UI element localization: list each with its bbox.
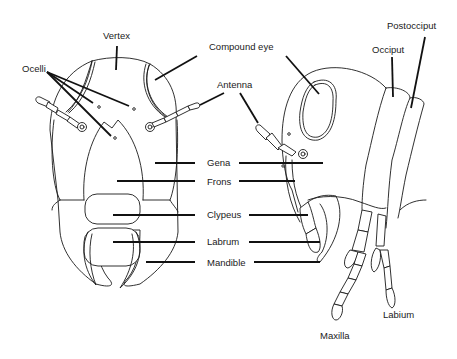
label-occiput: Occiput: [372, 44, 405, 55]
ocellus-lower: [114, 137, 117, 140]
label-clypeus: Clypeus: [207, 209, 242, 220]
label-vertex: Vertex: [103, 30, 130, 41]
label-postocciput: Postocciput: [387, 20, 436, 31]
label-maxilla: Maxilla: [320, 330, 350, 341]
ocellus-left: [98, 106, 101, 109]
ocellus-median: [133, 108, 136, 111]
label-labrum: Labrum: [207, 236, 239, 247]
insect-head-diagram: Vertex Ocelli Compound eye Antenna Occip…: [0, 0, 457, 359]
label-mandible: Mandible: [207, 257, 246, 268]
front-clypeus: [85, 194, 140, 224]
side-view-head: [282, 68, 426, 320]
side-head-capsule: [282, 68, 386, 212]
label-antenna: Antenna: [217, 79, 253, 90]
label-gena: Gena: [207, 157, 231, 168]
label-frons: Frons: [207, 176, 232, 187]
label-ocelli: Ocelli: [22, 63, 46, 74]
side-occiput: [386, 88, 410, 228]
side-labium: [371, 214, 395, 308]
front-frons: [84, 120, 144, 200]
side-maxilla: [332, 210, 372, 320]
label-compound-eye: Compound eye: [209, 41, 273, 52]
label-labium: Labium: [383, 309, 414, 320]
front-view-head: [50, 58, 178, 288]
